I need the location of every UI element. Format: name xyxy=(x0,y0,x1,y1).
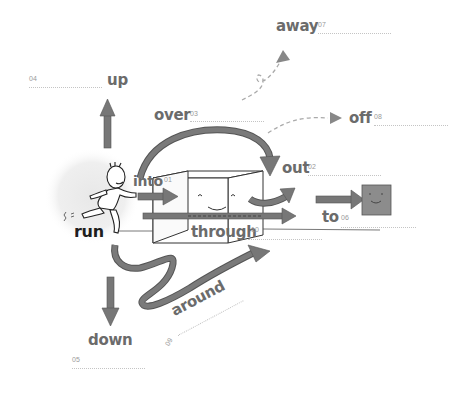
number-04: 04 xyxy=(29,75,37,82)
label-over: over xyxy=(154,108,190,123)
number-05: 05 xyxy=(72,356,80,363)
answer-blank-03[interactable] xyxy=(190,121,264,122)
label-up: up xyxy=(107,73,128,88)
up-arrow-icon xyxy=(100,99,115,148)
answer-blank-06[interactable] xyxy=(341,227,416,228)
answer-blank-07[interactable] xyxy=(318,33,391,34)
number-08: 08 xyxy=(374,113,382,120)
prepositions-diagram: 04 up over 03 away 07 off 08 out 02 into… xyxy=(0,0,472,393)
label-out: out xyxy=(282,161,309,176)
off-arrow-icon xyxy=(268,112,342,133)
number-01: 01 xyxy=(164,176,172,183)
away-arrow-icon xyxy=(242,50,290,100)
number-07: 07 xyxy=(318,21,326,28)
label-into: into xyxy=(133,174,163,188)
label-away: away xyxy=(276,19,318,34)
answer-blank-05[interactable] xyxy=(72,368,145,369)
to-arrow-icon xyxy=(316,190,364,209)
down-arrow-icon xyxy=(102,277,119,326)
label-off: off xyxy=(349,111,371,126)
number-10: 10 xyxy=(251,226,259,233)
number-03: 03 xyxy=(190,110,198,117)
label-to: to xyxy=(322,210,339,225)
label-run: run xyxy=(74,224,104,240)
label-through: through xyxy=(191,225,257,240)
number-06: 06 xyxy=(341,214,349,221)
answer-blank-04[interactable] xyxy=(29,87,102,88)
answer-blank-08[interactable] xyxy=(374,125,448,126)
number-02: 02 xyxy=(308,163,316,170)
answer-blank-10[interactable] xyxy=(248,239,322,240)
diagram-artwork xyxy=(0,0,472,393)
answer-blank-02[interactable] xyxy=(308,175,381,176)
target-square-icon xyxy=(362,185,391,215)
label-down: down xyxy=(88,333,132,348)
